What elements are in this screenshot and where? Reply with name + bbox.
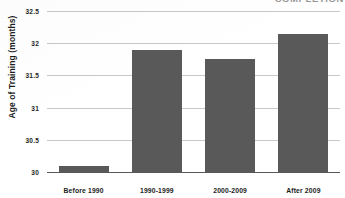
bar[interactable] [59, 166, 109, 172]
bar[interactable] [278, 34, 328, 172]
bar[interactable] [205, 59, 255, 172]
x-tick-label: Before 1990 [64, 187, 104, 194]
x-tick-label: 2000-2009 [213, 187, 247, 194]
y-tick-label: 31 [5, 104, 39, 111]
y-tick-label: 30.5 [5, 136, 39, 143]
chart-title-fragment: COMPLETION [222, 0, 344, 3]
bar[interactable] [132, 50, 182, 172]
y-tick-label: 32 [5, 40, 39, 47]
y-tick-label: 31.5 [5, 72, 39, 79]
plot-area: 32.53231.53130.530Before 19901990-199920… [47, 11, 340, 172]
gridline-32-5 [47, 11, 340, 12]
bar-chart: COMPLETION Age of Training (months) 32.5… [0, 0, 345, 198]
x-tick-label: After 2009 [286, 187, 320, 194]
x-tick-label: 1990-1999 [140, 187, 174, 194]
y-tick-label: 32.5 [5, 8, 39, 15]
gridline-30 [47, 172, 340, 173]
y-tick-label: 30 [5, 169, 39, 176]
